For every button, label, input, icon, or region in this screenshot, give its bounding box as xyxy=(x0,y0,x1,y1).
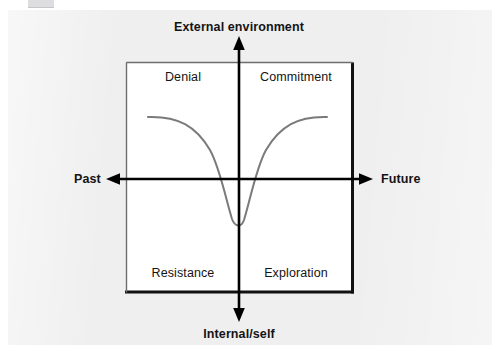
axis-label-external-environment: External environment xyxy=(174,20,304,34)
arrow-left-icon xyxy=(106,173,120,185)
axis-label-internal-self: Internal/self xyxy=(203,327,274,341)
quadrant-label-commitment: Commitment xyxy=(260,70,332,84)
figure-root: External environment Internal/self Past … xyxy=(0,0,500,359)
arrow-up-icon xyxy=(233,36,245,50)
quadrant-label-exploration: Exploration xyxy=(264,266,328,280)
quadrant-label-denial: Denial xyxy=(165,70,201,84)
quadrant-label-resistance: Resistance xyxy=(152,266,215,280)
axis-label-future: Future xyxy=(381,172,421,186)
arrow-down-icon xyxy=(233,308,245,322)
axis-label-past: Past xyxy=(74,172,101,186)
arrow-right-icon xyxy=(359,173,373,185)
